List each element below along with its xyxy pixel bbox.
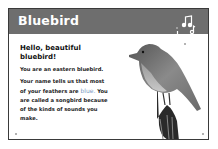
blue-highlight: blue. [80,87,95,94]
corner-mark [15,133,17,135]
description-text: Your name tells us that most of your fea… [20,77,110,123]
bluebird-card: Bluebird Hello, beautiful bluebird! You … [8,8,209,140]
card-title: Bluebird [18,13,79,28]
greeting-heading: Hello, beautiful bluebird! [20,44,100,62]
bluebird-on-post-image [127,39,207,140]
intro-text: You are an eastern bluebird. [20,66,103,72]
card-header: Bluebird [9,9,208,34]
corner-mark [202,133,204,135]
